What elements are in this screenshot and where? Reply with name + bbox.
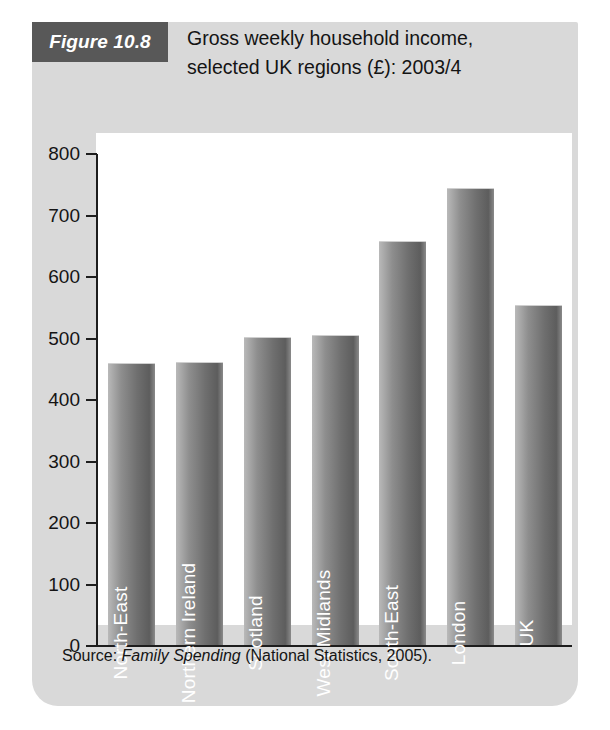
chart-plot-area: 8007006005004003002001000 North-EastNort… bbox=[32, 110, 578, 630]
bar: UK bbox=[515, 305, 562, 645]
bar-category-label: South-East bbox=[381, 585, 403, 681]
y-axis-tick bbox=[86, 338, 97, 340]
bar-category-label: North-East bbox=[110, 587, 132, 680]
bar-category-label-text: UK bbox=[516, 620, 538, 647]
y-axis-labels: 8007006005004003002001000 bbox=[32, 110, 80, 650]
figure-number-badge: Figure 10.8 bbox=[32, 22, 168, 62]
y-axis-tick-label: 100 bbox=[24, 574, 80, 596]
y-axis-tick-label: 600 bbox=[24, 266, 80, 288]
y-axis-tick-label: 700 bbox=[24, 205, 80, 227]
figure-title-line-1: Gross weekly household income, bbox=[187, 24, 567, 53]
figure-title: Gross weekly household income, selected … bbox=[187, 24, 567, 82]
y-axis-tick-label: 800 bbox=[24, 143, 80, 165]
bar-category-label-text: Northern Ireland bbox=[178, 563, 200, 704]
bar: West Midlands bbox=[312, 335, 359, 645]
y-axis-tick-label: 200 bbox=[24, 512, 80, 534]
bar-series: North-EastNorthern IrelandScotlandWest M… bbox=[98, 110, 572, 647]
y-axis-tick bbox=[86, 215, 97, 217]
bar: London bbox=[447, 188, 494, 645]
y-axis-tick bbox=[86, 584, 97, 586]
figure-header: Figure 10.8 Gross weekly household incom… bbox=[32, 22, 578, 110]
bar: South-East bbox=[379, 241, 426, 645]
bar-category-label-text: London bbox=[448, 601, 470, 666]
y-axis-tick-label: 500 bbox=[24, 328, 80, 350]
source-note: Source: Family Spending (National Statis… bbox=[62, 647, 432, 665]
bar-category-label: UK bbox=[516, 620, 538, 647]
bar-category-label-text: West Midlands bbox=[313, 570, 335, 697]
y-axis-tick bbox=[86, 153, 97, 155]
figure-panel: Figure 10.8 Gross weekly household incom… bbox=[32, 22, 578, 706]
bar-category-label: West Midlands bbox=[313, 570, 335, 697]
figure-screenshot: Figure 10.8 Gross weekly household incom… bbox=[0, 0, 610, 730]
bar-category-label: Northern Ireland bbox=[178, 563, 200, 704]
source-publication: Family Spending bbox=[122, 647, 241, 664]
figure-title-line-2: selected UK regions (£): 2003/4 bbox=[187, 53, 567, 82]
figure-number-label: Figure 10.8 bbox=[49, 31, 150, 53]
y-axis-tick-label: 300 bbox=[24, 451, 80, 473]
source-suffix: (National Statistics, 2005). bbox=[241, 647, 432, 664]
bar: North-East bbox=[108, 363, 155, 645]
bar: Scotland bbox=[244, 337, 291, 646]
y-axis-tick bbox=[86, 461, 97, 463]
y-axis-tick bbox=[86, 522, 97, 524]
bar-category-label-text: North-East bbox=[110, 587, 132, 680]
bar-category-label: London bbox=[448, 601, 470, 666]
y-axis-tick-label: 400 bbox=[24, 389, 80, 411]
y-axis-tick bbox=[86, 399, 97, 401]
y-axis-tick bbox=[86, 276, 97, 278]
bar: Northern Ireland bbox=[176, 362, 223, 645]
source-prefix: Source: bbox=[62, 647, 122, 664]
bar-category-label-text: South-East bbox=[381, 585, 403, 681]
